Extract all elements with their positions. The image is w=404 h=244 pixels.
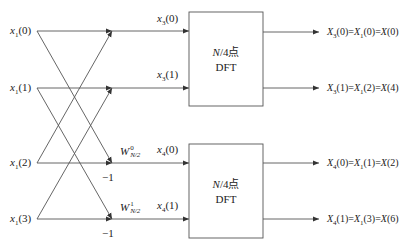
input-label-3: x1(3)	[10, 213, 31, 224]
output-label-1: X3(1)=X1(2)=X(4)	[327, 83, 399, 93]
input-label-2: x1(2)	[10, 157, 31, 168]
dft-block-top-line1: N/4点	[189, 45, 263, 60]
dft-block-bottom-line2: DFT	[189, 192, 263, 207]
dft-block-top-label: N/4点 DFT	[189, 45, 263, 75]
dft-block-top-line2: DFT	[189, 60, 263, 75]
intermediate-label-x3-1: x3(1)	[157, 69, 178, 80]
intermediate-label-x4-1: x4(1)	[157, 200, 178, 211]
multiplier-minus-one-1: −1	[102, 228, 114, 239]
output-label-0: X3(0)=X1(0)=X(0)	[327, 27, 399, 37]
intermediate-label-x3-0: x3(0)	[157, 13, 178, 24]
input-label-0: x1(0)	[10, 25, 31, 36]
multiplier-minus-one-0: −1	[102, 172, 114, 183]
twiddle-factor-1: W1N/2	[120, 201, 140, 215]
input-label-1: x1(1)	[10, 82, 31, 93]
output-label-2: X4(0)=X1(1)=X(2)	[327, 158, 399, 168]
twiddle-factor-0: W0N/2	[120, 145, 140, 159]
dft-block-bottom-label: N/4点 DFT	[189, 177, 263, 207]
output-label-3: X4(1)=X1(3)=X(6)	[327, 214, 399, 224]
dft-block-bottom-line1: N/4点	[189, 177, 263, 192]
intermediate-label-x4-0: x4(0)	[157, 144, 178, 155]
